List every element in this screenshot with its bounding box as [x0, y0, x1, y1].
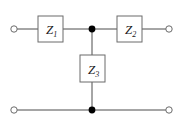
terminal-output-top [166, 26, 172, 32]
junction-node-bottom [89, 107, 96, 114]
impedance-label-z2-sub: 2 [132, 30, 136, 39]
terminal-input-bottom [11, 107, 17, 113]
impedance-label-z1-sub: 1 [53, 30, 57, 39]
circuit-diagram: Z1 Z2 Z3 [0, 0, 182, 122]
terminal-output-bottom [166, 107, 172, 113]
junction-node-top [89, 26, 96, 33]
terminal-input-top [11, 26, 17, 32]
schematic-svg: Z1 Z2 Z3 [0, 0, 182, 122]
impedance-label-z3-sub: 3 [94, 70, 99, 79]
